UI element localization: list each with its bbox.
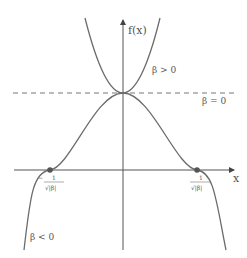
potential-plot: f(x) x β > 0 β = 0 β < 0 − 1 √|β| 1 √|β|: [0, 0, 247, 258]
right-root-point: [194, 167, 200, 173]
svg-text:1: 1: [199, 174, 203, 181]
diagram-canvas: f(x) x β > 0 β = 0 β < 0 − 1 √|β| 1 √|β|: [0, 0, 247, 258]
beta-positive-label: β > 0: [152, 65, 176, 75]
svg-text:−: −: [38, 174, 43, 181]
beta-negative-label: β < 0: [30, 232, 54, 242]
svg-text:√|β|: √|β|: [191, 184, 202, 192]
beta-zero-label: β = 0: [202, 96, 226, 106]
left-root-point: [47, 167, 53, 173]
svg-text:√|β|: √|β|: [45, 184, 56, 192]
left-root-label: − 1 √|β|: [38, 174, 64, 192]
svg-text:1: 1: [52, 174, 56, 181]
x-axis-label: x: [233, 172, 240, 185]
y-axis-label: f(x): [128, 24, 147, 37]
